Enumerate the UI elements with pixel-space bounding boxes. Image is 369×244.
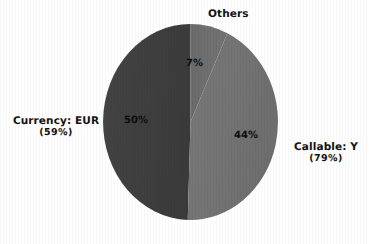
pie-chart-figure: 7% 50% 44% Others Currency: EUR (59%) Ca… (0, 0, 369, 244)
label-others-title: Others (208, 8, 249, 20)
label-others: Others (208, 8, 249, 20)
label-callable-y-title: Callable: Y (294, 141, 358, 153)
label-currency-eur-sub: (59%) (8, 127, 104, 138)
label-currency-eur-title: Currency: EUR (13, 115, 99, 127)
label-currency-eur: Currency: EUR (59%) (8, 115, 104, 139)
slice-percent-others: 7% (186, 58, 203, 70)
label-callable-y-sub: (79%) (285, 153, 367, 164)
slice-percent-callable-y: 44% (234, 130, 258, 142)
label-callable-y: Callable: Y (79%) (285, 141, 367, 165)
slice-percent-currency-eur: 50% (124, 115, 148, 127)
